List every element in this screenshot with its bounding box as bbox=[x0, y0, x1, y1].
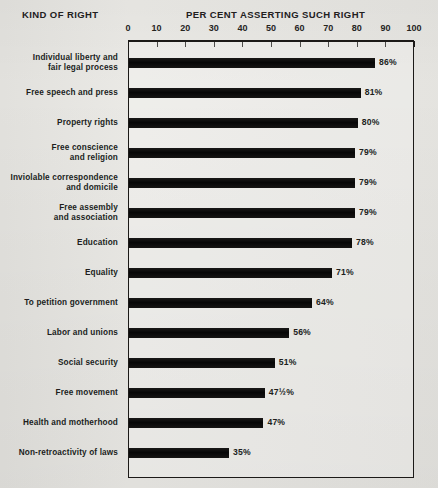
bar-category-label-line: Inviolable correspondence bbox=[11, 173, 119, 184]
bar-category-label-line: fair legal process bbox=[48, 63, 118, 74]
bar-category-label: Inviolable correspondenceand domicile bbox=[0, 168, 118, 198]
bar-category-label: Free movement bbox=[0, 378, 118, 408]
bar bbox=[129, 388, 265, 398]
bar-value-label: 35% bbox=[233, 447, 251, 457]
bar-chart: KIND OF RIGHT PER CENT ASSERTING SUCH RI… bbox=[0, 0, 438, 488]
bar-category-label: Free conscienceand religion bbox=[0, 138, 118, 168]
bar-category-label: Labor and unions bbox=[0, 318, 118, 348]
bar-row: Non-retroactivity of laws35% bbox=[0, 438, 438, 468]
bar bbox=[129, 148, 355, 158]
bar-category-label: Health and motherhood bbox=[0, 408, 118, 438]
bar-category-label: Property rights bbox=[0, 108, 118, 138]
bar-row: Individual liberty andfair legal process… bbox=[0, 48, 438, 78]
bar-row: Property rights80% bbox=[0, 108, 438, 138]
bar-value-label: 71% bbox=[336, 267, 354, 277]
bar bbox=[129, 328, 289, 338]
x-axis-tick-mark bbox=[414, 41, 415, 47]
bar-value-label: 79% bbox=[359, 207, 377, 217]
bar-row: Education78% bbox=[0, 228, 438, 258]
bar-category-label-line: Free speech and press bbox=[26, 88, 118, 99]
chart-title: PER CENT ASSERTING SUCH RIGHT bbox=[186, 9, 365, 20]
bar-category-label-line: Individual liberty and bbox=[33, 53, 118, 64]
bar-row: Equality71% bbox=[0, 258, 438, 288]
bar-category-label-line: Free movement bbox=[56, 388, 118, 399]
bar bbox=[129, 358, 275, 368]
x-axis-tick-label: 60 bbox=[295, 23, 305, 33]
x-axis-tick-label: 70 bbox=[323, 23, 333, 33]
bar-category-label-line: Non-retroactivity of laws bbox=[19, 448, 118, 459]
bar bbox=[129, 178, 355, 188]
bar bbox=[129, 88, 361, 98]
bar bbox=[129, 238, 352, 248]
bar-value-label: 79% bbox=[359, 177, 377, 187]
bar bbox=[129, 208, 355, 218]
x-axis-tick-label: 50 bbox=[266, 23, 276, 33]
bar bbox=[129, 268, 332, 278]
bar-category-label: Equality bbox=[0, 258, 118, 288]
bar-value-label: 86% bbox=[379, 57, 397, 67]
bar-category-label: Education bbox=[0, 228, 118, 258]
bar-value-label: 47½% bbox=[269, 387, 294, 397]
bar-category-label-line: Free assembly bbox=[59, 203, 118, 214]
bar-category-label-line: Education bbox=[77, 238, 118, 249]
bar bbox=[129, 448, 229, 458]
bar-row: To petition government64% bbox=[0, 288, 438, 318]
bar-row: Free assemblyand association79% bbox=[0, 198, 438, 228]
x-axis-tick-label: 10 bbox=[152, 23, 162, 33]
bar-value-label: 51% bbox=[279, 357, 297, 367]
bar bbox=[129, 58, 375, 68]
bar-value-label: 64% bbox=[316, 297, 334, 307]
bar-category-label: Individual liberty andfair legal process bbox=[0, 48, 118, 78]
bar-category-label-line: Social security bbox=[58, 358, 118, 369]
x-axis-tick-label: 0 bbox=[125, 23, 130, 33]
bar-category-label-line: and association bbox=[54, 213, 118, 224]
bar-value-label: 80% bbox=[362, 117, 380, 127]
bar-row: Labor and unions56% bbox=[0, 318, 438, 348]
x-axis-tick-label: 90 bbox=[380, 23, 390, 33]
bar-category-label: To petition government bbox=[0, 288, 118, 318]
bar-value-label: 79% bbox=[359, 147, 377, 157]
bar-category-label: Non-retroactivity of laws bbox=[0, 438, 118, 468]
bar-category-label: Free speech and press bbox=[0, 78, 118, 108]
x-axis-tick-label: 80 bbox=[352, 23, 362, 33]
bar-value-label: 56% bbox=[293, 327, 311, 337]
kind-of-right-header: KIND OF RIGHT bbox=[22, 9, 98, 20]
bar bbox=[129, 298, 312, 308]
x-axis-tick-label: 100 bbox=[406, 23, 421, 33]
bar-category-label-line: Equality bbox=[85, 268, 118, 279]
bar-category-label: Social security bbox=[0, 348, 118, 378]
bar-category-label-line: Health and motherhood bbox=[23, 418, 118, 429]
bar-category-label-line: Free conscience bbox=[52, 143, 118, 154]
bar-row: Free conscienceand religion79% bbox=[0, 138, 438, 168]
x-axis-tick-label: 40 bbox=[237, 23, 247, 33]
bar-category-label-line: Property rights bbox=[57, 118, 118, 129]
bar-category-label-line: and religion bbox=[70, 153, 118, 164]
bar-category-label-line: and domicile bbox=[66, 183, 118, 194]
bar-value-label: 81% bbox=[365, 87, 383, 97]
bar-row: Free movement47½% bbox=[0, 378, 438, 408]
bar-category-label: Free assemblyand association bbox=[0, 198, 118, 228]
bar bbox=[129, 418, 263, 428]
bar-row: Inviolable correspondenceand domicile79% bbox=[0, 168, 438, 198]
bar bbox=[129, 118, 358, 128]
bar-row: Free speech and press81% bbox=[0, 78, 438, 108]
x-axis-tick-label: 30 bbox=[209, 23, 219, 33]
bar-value-label: 47% bbox=[267, 417, 285, 427]
bar-value-label: 78% bbox=[356, 237, 374, 247]
bar-row: Health and motherhood47% bbox=[0, 408, 438, 438]
bar-category-label-line: Labor and unions bbox=[47, 328, 118, 339]
bar-category-label-line: To petition government bbox=[24, 298, 118, 309]
x-axis-tick-label: 20 bbox=[180, 23, 190, 33]
bar-row: Social security51% bbox=[0, 348, 438, 378]
x-axis-tick-labels: 0102030405060708090100 bbox=[128, 23, 414, 37]
